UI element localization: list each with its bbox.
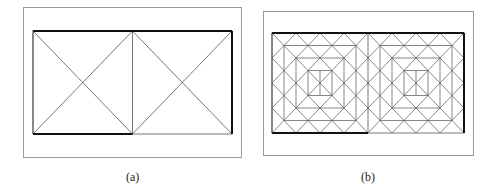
caption-a: (a) xyxy=(126,170,139,185)
figure-canvas xyxy=(0,0,496,191)
caption-b: (b) xyxy=(361,170,375,185)
